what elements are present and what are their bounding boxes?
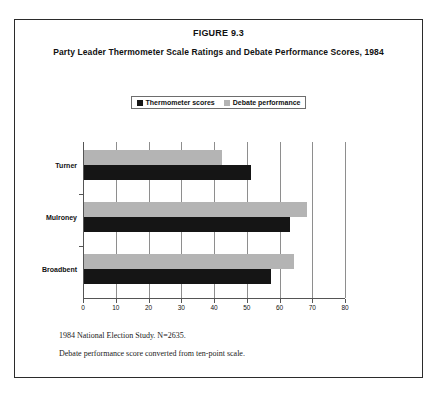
x-tick-label: 60 — [276, 304, 283, 311]
figure-number: FIGURE 9.3 — [15, 28, 422, 38]
x-tick-mark — [247, 299, 248, 303]
bar-thermometer-turner — [84, 165, 251, 180]
x-gridline — [345, 142, 346, 298]
chart-plot-area: 01020304050607080TurnerMulroneyBroadbent — [83, 142, 345, 298]
x-tick-mark — [149, 299, 150, 303]
category-label-turner: Turner — [55, 162, 77, 169]
legend-label: Debate performance — [233, 99, 301, 106]
legend-label: Thermometer scores — [146, 99, 215, 106]
figure-title-block: FIGURE 9.3 Party Leader Thermometer Scal… — [15, 20, 422, 57]
x-tick-mark — [214, 299, 215, 303]
figure-caption: Party Leader Thermometer Scale Ratings a… — [15, 47, 422, 57]
x-tick-label: 80 — [341, 304, 348, 311]
figure-frame: FIGURE 9.3 Party Leader Thermometer Scal… — [14, 19, 423, 378]
x-tick-label: 10 — [112, 304, 119, 311]
bar-debate-broadbent — [84, 254, 294, 269]
x-gridline — [312, 142, 313, 298]
legend-entry: Debate performance — [224, 99, 301, 106]
x-tick-mark — [280, 299, 281, 303]
bar-thermometer-mulroney — [84, 217, 290, 232]
x-tick-mark — [181, 299, 182, 303]
x-tick-label: 20 — [145, 304, 152, 311]
x-tick-label: 70 — [309, 304, 316, 311]
y-tick-mark — [79, 246, 83, 247]
x-tick-label: 0 — [81, 304, 85, 311]
square-swatch-icon — [137, 100, 143, 106]
footnote: Debate performance score converted from … — [59, 349, 389, 358]
bar-debate-mulroney — [84, 202, 307, 217]
square-swatch-icon — [224, 100, 230, 106]
category-label-mulroney: Mulroney — [46, 214, 77, 221]
chart-legend: Thermometer scoresDebate performance — [131, 96, 307, 109]
x-tick-mark — [116, 299, 117, 303]
x-tick-mark — [312, 299, 313, 303]
bar-thermometer-broadbent — [84, 269, 271, 284]
figure-footnotes: 1984 National Election Study. N=2635.Deb… — [59, 331, 389, 367]
x-tick-mark — [345, 299, 346, 303]
legend-entry: Thermometer scores — [137, 99, 215, 106]
x-tick-label: 30 — [178, 304, 185, 311]
category-label-broadbent: Broadbent — [42, 266, 77, 273]
x-tick-label: 40 — [210, 304, 217, 311]
footnote: 1984 National Election Study. N=2635. — [59, 331, 389, 340]
x-tick-label: 50 — [243, 304, 250, 311]
x-tick-mark — [83, 299, 84, 303]
bar-debate-turner — [84, 150, 222, 165]
y-tick-mark — [79, 194, 83, 195]
